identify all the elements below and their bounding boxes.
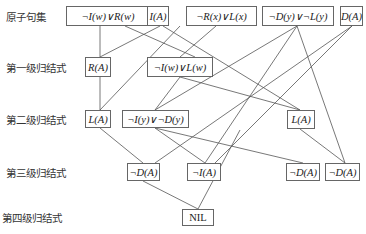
edge-c5-to-r3a xyxy=(155,26,352,163)
edge-r2b-to-r3c xyxy=(155,128,303,163)
edge-r1b-to-r2c xyxy=(180,77,300,110)
clause-node-c2: I(A) xyxy=(147,6,169,26)
clause-node-r3a: ¬D(A) xyxy=(127,163,160,181)
edge-r3a-to-nil xyxy=(143,181,198,209)
edge-c3-to-r1b xyxy=(180,26,216,57)
edge-r2a-to-r3a xyxy=(100,128,143,163)
edge-c4-to-r3d xyxy=(297,26,345,163)
clause-node-c3: ¬R(x)∨L(x) xyxy=(186,6,257,26)
clause-node-r3c: ¬D(A) xyxy=(286,163,320,181)
clause-node-c4: ¬D(y)∨¬L(y) xyxy=(262,6,334,26)
edge-r1b-to-r2b xyxy=(155,77,180,110)
clause-node-c1: ¬I(w)∨R(w) xyxy=(66,6,150,26)
clause-node-r1a: R(A) xyxy=(85,57,111,77)
clause-node-nil: NIL xyxy=(182,209,214,226)
clause-node-r1b: ¬I(w)∨L(w) xyxy=(147,57,213,77)
edge-c1-to-r1b xyxy=(125,26,195,57)
level-label-2: 第二级归结式 xyxy=(6,112,66,127)
level-label-1: 第一级归结式 xyxy=(6,60,66,75)
level-label-0: 原子句集 xyxy=(6,9,46,24)
resolution-tree-diagram: 原子句集第一级归结式第二级归结式第三级归结式第四级归结式 ¬I(w)∨R(w)I… xyxy=(0,0,366,234)
clause-node-r2c: L(A) xyxy=(287,110,315,129)
clause-node-c5: D(A) xyxy=(340,6,363,26)
edge-c2-to-r1a xyxy=(100,26,160,57)
clause-node-r3b: ¬I(A) xyxy=(187,163,221,181)
clause-node-r3d: ¬D(A) xyxy=(325,163,360,181)
level-label-3: 第三级归结式 xyxy=(6,165,66,180)
edge-r2c-to-r3c xyxy=(300,129,345,163)
level-label-4: 第四级归结式 xyxy=(2,210,62,225)
clause-node-r2a: L(A) xyxy=(85,110,111,128)
clause-node-r2b: ¬I(y)∨¬D(y) xyxy=(122,110,189,128)
